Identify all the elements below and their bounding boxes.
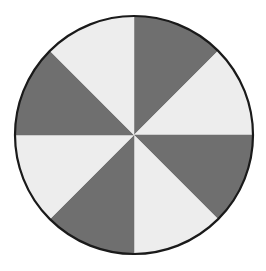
pie-slice-group [15, 16, 253, 254]
figure-canvas [0, 0, 266, 271]
pie-chart [0, 0, 266, 271]
